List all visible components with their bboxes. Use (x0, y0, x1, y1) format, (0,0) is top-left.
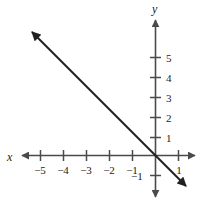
x-tick-label: −2 (103, 165, 115, 176)
x-tick-label: −5 (34, 165, 46, 176)
x-tick-label: −3 (80, 165, 92, 176)
coordinate-plane-figure: x y −5 −4 −3 −2 −1 1 −1 1 2 3 4 5 (0, 0, 205, 207)
x-tick-label: 1 (176, 165, 182, 176)
y-axis-label: y (152, 3, 157, 15)
x-axis (22, 150, 195, 161)
x-axis-label: x (7, 151, 12, 163)
y-tick-label: 5 (166, 53, 172, 64)
plotted-line (32, 32, 186, 186)
y-tick-label: 2 (166, 113, 172, 124)
y-tick-label: 4 (166, 73, 172, 84)
y-axis (150, 20, 161, 197)
y-tick-label: 3 (166, 93, 172, 104)
y-tick-label: −1 (131, 171, 143, 182)
y-tick-label: 1 (166, 133, 172, 144)
x-tick-label: −4 (57, 165, 69, 176)
